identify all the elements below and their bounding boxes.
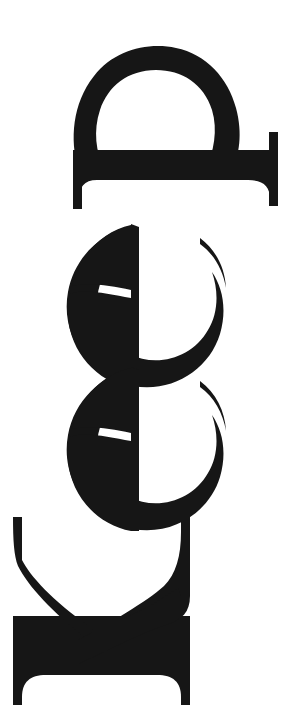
rotated-word-artwork — [0, 0, 308, 728]
artwork-canvas: Keep — [0, 0, 308, 728]
